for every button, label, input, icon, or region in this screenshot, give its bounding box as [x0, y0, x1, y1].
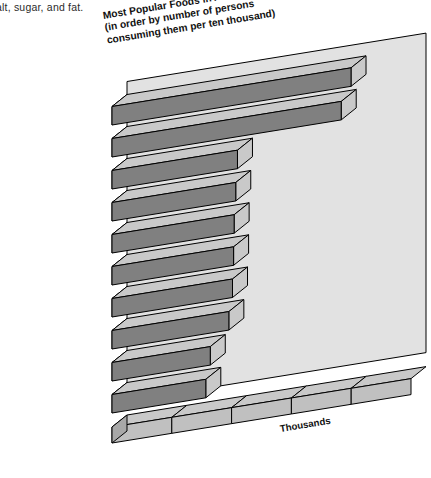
chart-canvas: [0, 0, 431, 478]
bar-chart: Most Popular Foods in America (in order …: [0, 0, 431, 478]
chart-screenshot: alt, sugar, and fat. Most Popular Foods …: [0, 0, 431, 478]
